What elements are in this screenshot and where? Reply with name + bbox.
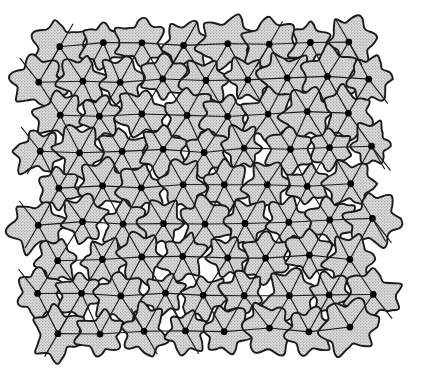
lattice-node	[141, 328, 148, 335]
lattice-node	[262, 255, 269, 262]
lattice-node	[96, 113, 103, 120]
lattice-node	[345, 39, 352, 46]
lattice-node	[241, 145, 248, 152]
lattice-node	[120, 221, 127, 228]
lattice-node	[159, 76, 166, 83]
lattice-node	[117, 79, 124, 86]
lattice-bond-horizontal	[228, 44, 270, 45]
lattice-node	[97, 331, 104, 338]
figure-root	[0, 0, 428, 374]
lattice-node	[284, 75, 291, 82]
lattice-node	[224, 254, 231, 261]
lattice-node	[54, 257, 61, 264]
lattice-node	[200, 292, 207, 299]
grain-cell-layer	[6, 14, 403, 363]
lattice-node	[224, 40, 231, 47]
lattice-node	[221, 328, 228, 335]
lattice-node	[266, 41, 273, 48]
lattice-node	[160, 146, 167, 153]
lattice-node	[242, 220, 249, 227]
lattice-node	[324, 73, 331, 80]
lattice-node	[370, 291, 377, 298]
lattice-node	[162, 290, 169, 297]
lattice-bond-horizontal	[142, 256, 183, 257]
lattice-bond-horizontal	[205, 223, 245, 224]
lattice-node	[182, 328, 189, 335]
lattice-node	[202, 221, 209, 228]
lattice-node	[119, 148, 126, 155]
lattice-node	[265, 111, 272, 118]
lattice-node	[78, 290, 85, 297]
lattice-node	[285, 219, 292, 226]
lattice-node	[34, 290, 41, 297]
lattice-node	[369, 215, 376, 222]
lattice-node	[55, 330, 62, 337]
lattice-node	[221, 181, 228, 188]
lattice-bond-horizontal	[185, 331, 224, 332]
lattice-node	[326, 291, 333, 298]
lattice-node	[55, 185, 62, 192]
lattice-node	[138, 254, 145, 261]
lattice-node	[79, 78, 86, 85]
lattice-node	[100, 39, 107, 46]
lattice-node	[306, 252, 313, 259]
lattice-diagram	[0, 0, 428, 374]
lattice-node	[35, 79, 42, 86]
lattice-node	[365, 76, 372, 83]
lattice-node	[244, 76, 251, 83]
lattice-node	[304, 183, 311, 190]
lattice-node	[241, 292, 248, 299]
lattice-node	[264, 181, 271, 188]
lattice-node	[117, 293, 124, 300]
lattice-node	[368, 143, 375, 150]
lattice-node	[37, 148, 44, 155]
lattice-node	[266, 325, 273, 332]
lattice-node	[203, 77, 210, 84]
lattice-node	[35, 222, 42, 229]
lattice-node	[307, 39, 314, 46]
lattice-node	[326, 144, 333, 151]
lattice-node	[138, 184, 145, 191]
lattice-node	[345, 110, 352, 117]
lattice-node	[347, 180, 354, 187]
lattice-bond-horizontal	[206, 80, 248, 81]
lattice-node	[224, 113, 231, 120]
lattice-node	[286, 292, 293, 299]
lattice-node	[57, 112, 64, 119]
lattice-node	[56, 43, 63, 50]
lattice-node	[346, 256, 353, 263]
lattice-node	[99, 256, 106, 263]
lattice-node	[160, 220, 167, 227]
lattice-node	[201, 149, 208, 156]
lattice-node	[287, 146, 294, 153]
lattice-node	[180, 42, 187, 49]
lattice-node	[180, 181, 187, 188]
lattice-node	[305, 328, 312, 335]
lattice-node	[346, 324, 353, 331]
lattice-node	[326, 217, 333, 224]
lattice-node	[99, 182, 106, 189]
lattice-node	[79, 218, 86, 225]
lattice-node	[179, 253, 186, 260]
lattice-node	[138, 111, 145, 118]
lattice-node	[304, 108, 311, 115]
lattice-node	[184, 112, 191, 119]
lattice-node	[139, 39, 146, 46]
lattice-node	[76, 149, 83, 156]
